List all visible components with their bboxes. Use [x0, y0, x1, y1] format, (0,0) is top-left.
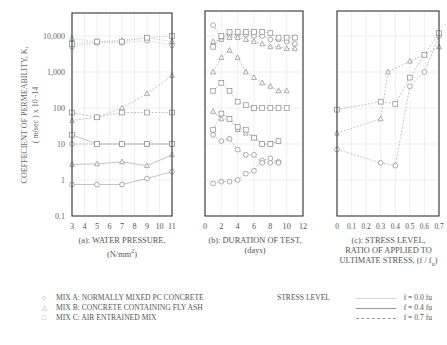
- triangle-marker-icon: [252, 75, 257, 80]
- square-marker-icon: [227, 88, 232, 93]
- square-marker-icon: [292, 35, 297, 40]
- circle-marker-icon: [268, 156, 273, 161]
- square-marker-icon: [95, 142, 100, 147]
- x-tick-label: 0: [335, 222, 339, 231]
- series-line: [213, 83, 286, 108]
- caption-b-line2: (days): [203, 246, 307, 256]
- square-marker-icon: [284, 106, 289, 111]
- circle-marker-icon: [227, 136, 232, 141]
- square-marker-icon: [95, 115, 100, 120]
- panel-a-water-pressure: 34567891011: [70, 13, 176, 231]
- circle-marker-icon: [219, 179, 224, 184]
- x-tick-label: 8: [132, 222, 136, 231]
- x-tick-label: 6: [107, 222, 111, 231]
- y-tick-label: 100: [53, 104, 65, 113]
- legend-mix-a: ○ MIX A: NORMALLY MIXED PC CONCRETE: [42, 293, 204, 303]
- circle-marker-icon: [211, 23, 216, 28]
- x-tick-label: 2: [219, 222, 223, 231]
- triangle-marker-icon: [276, 88, 281, 93]
- legend-stress-07: f = 0.7 fu: [340, 313, 432, 323]
- square-marker-icon: [252, 135, 257, 140]
- circle-marker-icon: [422, 70, 427, 75]
- circle-marker-icon: [260, 160, 265, 165]
- caption-a: (a): WATER PRESSURE, (N/mm2): [70, 236, 174, 260]
- square-marker-icon: [219, 80, 224, 85]
- triangle-marker-icon: [292, 46, 297, 51]
- triangle-marker-icon: [120, 159, 125, 164]
- triangle-marker-icon: [276, 44, 281, 49]
- triangle-marker-icon: [227, 48, 232, 53]
- permeability-figure: COEFFECIENT OF PERMEABILITY, K, ( m/sec …: [0, 0, 447, 345]
- series-line: [337, 47, 439, 133]
- triangle-marker-icon: [378, 116, 383, 121]
- x-tick-label: 4: [82, 222, 86, 231]
- legend-stress-04: f = 0.4 fu: [340, 303, 432, 313]
- square-marker-icon: [211, 127, 216, 132]
- legend-mix-b: △ MIX B: CONCRETE CONTAINING FLY ASH: [42, 303, 204, 313]
- triangle-marker-icon: [145, 91, 150, 96]
- x-tick-label: 0.1: [347, 222, 357, 231]
- x-tick-label: 0.7: [434, 222, 444, 231]
- x-tick-label: 5: [95, 222, 99, 231]
- triangle-marker-icon: [243, 69, 248, 74]
- series-line: [213, 50, 286, 90]
- circle-marker-icon: [95, 182, 100, 187]
- square-marker-icon: [219, 111, 224, 116]
- triangle-marker-icon: △: [42, 303, 56, 313]
- triangle-marker-icon: [235, 55, 240, 60]
- square-marker-icon: [227, 29, 232, 34]
- circle-marker-icon: [276, 160, 281, 165]
- x-tick-label: 10: [283, 222, 291, 231]
- x-tick-label: 10: [155, 222, 163, 231]
- square-marker-icon: [276, 106, 281, 111]
- circle-marker-icon: ○: [42, 293, 56, 303]
- caption-c-line1: (c): STRESS LEVEL,: [330, 236, 447, 246]
- x-tick-label: 4: [236, 222, 240, 231]
- circle-marker-icon: [235, 147, 240, 152]
- triangle-marker-icon: [211, 69, 216, 74]
- square-marker-icon: [211, 44, 216, 49]
- caption-a-line2: (N/mm2): [70, 246, 174, 260]
- x-tick-label: 0.5: [405, 222, 415, 231]
- square-marker-icon: [268, 31, 273, 36]
- dashed-line-icon: [356, 308, 396, 309]
- circle-marker-icon: [393, 163, 398, 168]
- square-marker-icon: [268, 142, 273, 147]
- triangle-marker-icon: [386, 69, 391, 74]
- square-marker-icon: [145, 35, 150, 40]
- dotted-line-icon: [356, 318, 396, 319]
- circle-marker-icon: [243, 171, 248, 176]
- x-tick-label: 9: [145, 222, 149, 231]
- triangle-marker-icon: [260, 41, 265, 46]
- circle-marker-icon: [211, 132, 216, 137]
- x-tick-label: 11: [168, 222, 176, 231]
- triangle-marker-icon: [260, 80, 265, 85]
- square-marker-icon: [235, 29, 240, 34]
- square-marker-icon: [393, 101, 398, 106]
- x-tick-label: 0.6: [420, 222, 430, 231]
- circle-marker-icon: [252, 152, 257, 157]
- legend-stress-0: f = 0.0 fu: [340, 293, 432, 303]
- x-tick-label: 3: [70, 222, 74, 231]
- solid-line-icon: [356, 298, 396, 299]
- square-marker-icon: [145, 142, 150, 147]
- square-marker-icon: [120, 110, 125, 115]
- square-marker-icon: [268, 106, 273, 111]
- square-marker-icon: [276, 139, 281, 144]
- square-marker-icon: [120, 39, 125, 44]
- circle-marker-icon: [219, 139, 224, 144]
- square-marker-icon: [211, 88, 216, 93]
- legend-mix-c: □ MIX C: AIR ENTRAINED MIX: [42, 313, 204, 323]
- square-marker-icon: [260, 106, 265, 111]
- circle-marker-icon: [243, 152, 248, 157]
- square-marker-icon: [227, 116, 232, 121]
- y-tick-label: 1: [61, 176, 65, 185]
- square-marker-icon: [422, 52, 427, 57]
- square-marker-icon: [145, 110, 150, 115]
- caption-c: (c): STRESS LEVEL, RATIO OF APPLIED TO U…: [330, 236, 447, 269]
- x-tick-label: 6: [252, 222, 256, 231]
- square-marker-icon: □: [42, 313, 56, 323]
- circle-marker-icon: [378, 160, 383, 165]
- circle-marker-icon: [227, 179, 232, 184]
- plot-frame: [337, 11, 439, 216]
